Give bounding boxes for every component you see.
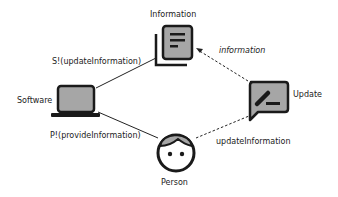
node-label-software: Software	[17, 96, 52, 106]
edge-label-person-update: updateInformation	[216, 137, 291, 147]
edge-person-update	[196, 116, 249, 138]
node-label-update: Update	[293, 90, 322, 100]
edit-comment-icon	[250, 82, 288, 120]
node-label-person: Person	[161, 178, 188, 188]
edge-label-software-information: S!(updateInformation)	[52, 57, 141, 67]
edge-label-software-person: P!(provideInformation)	[50, 131, 141, 141]
node-label-information: Information	[150, 10, 196, 20]
person-face-icon	[158, 135, 194, 171]
document-stack-icon	[156, 26, 192, 65]
edge-label-update-information: information	[219, 46, 265, 56]
laptop-icon	[51, 86, 100, 117]
